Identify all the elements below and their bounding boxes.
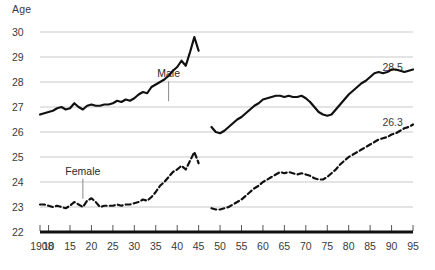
series-line-male [211, 70, 413, 134]
gridlines [40, 32, 413, 207]
series-line-male [40, 37, 199, 115]
plot-area [0, 0, 435, 270]
series-line-female [40, 152, 199, 208]
chart-container: Age 302928272625242322 19081015202530354… [0, 0, 435, 270]
axis-ticks [40, 225, 413, 231]
data-series [40, 37, 413, 210]
series-line-female [211, 125, 413, 210]
